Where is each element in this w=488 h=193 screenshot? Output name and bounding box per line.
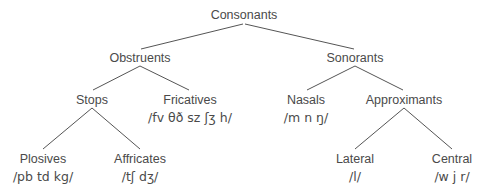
node-nasals: Nasals [287, 93, 325, 107]
edge-consonants-sonorants [245, 24, 354, 49]
node-stops: Stops [76, 93, 108, 107]
ipa-nasals: /m n ŋ/ [284, 111, 328, 125]
edge-consonants-obstruents [141, 24, 243, 49]
edge-stops-plosives [43, 108, 92, 149]
node-lateral: Lateral [336, 152, 374, 166]
edge-obstruents-stops [93, 66, 140, 90]
edge-obstruents-fricatives [140, 66, 189, 90]
ipa-plosives: /pb td kg/ [13, 170, 73, 184]
node-obstruents: Obstruents [109, 51, 170, 65]
consonant-classification-tree: Consonants Obstruents Sonorants Stops Fr… [0, 0, 488, 193]
node-fricatives: Fricatives [163, 93, 216, 107]
node-affricates: Affricates [114, 152, 166, 166]
node-plosives: Plosives [20, 152, 67, 166]
edge-approximants-lateral [355, 108, 404, 149]
ipa-central: /w j r/ [434, 170, 469, 184]
node-sonorants: Sonorants [327, 51, 384, 65]
ipa-fricatives: /fv θð sz ʃʒ h/ [148, 111, 232, 125]
edge-sonorants-nasals [307, 66, 355, 90]
node-approximants: Approximants [366, 93, 442, 107]
edge-stops-affricates [92, 108, 140, 149]
edge-sonorants-approximants [355, 66, 403, 90]
edge-approximants-central [404, 108, 452, 149]
node-consonants: Consonants [211, 8, 278, 22]
ipa-lateral: /l/ [349, 170, 361, 184]
ipa-affricates: /tʃ dʒ/ [122, 170, 159, 184]
node-central: Central [432, 152, 472, 166]
